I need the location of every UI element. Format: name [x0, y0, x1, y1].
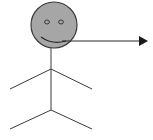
stick-figure-diagram: [0, 0, 153, 140]
right-leg: [51, 110, 92, 129]
stick-figure: [10, 2, 92, 129]
left-leg: [10, 110, 51, 129]
right-arm: [51, 69, 92, 89]
arrow-head-icon: [139, 36, 148, 46]
arrow: [62, 36, 148, 46]
left-arm: [10, 69, 51, 89]
